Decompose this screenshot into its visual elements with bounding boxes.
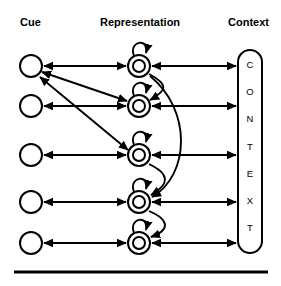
horizontal-links [44, 66, 126, 243]
context-letter-e: E [247, 168, 253, 179]
link-cue-1-rep-2 [42, 72, 127, 101]
representation-1-inner [133, 60, 145, 72]
link-cue-1-rep-3 [40, 77, 128, 150]
self-loop-rep-1 [133, 43, 147, 56]
header-cue: Cue [20, 16, 41, 28]
arc-rep-3-rep-4 [149, 164, 165, 195]
column-headers: Cue Representation Context [20, 16, 269, 28]
representation-4-inner [133, 196, 145, 208]
self-loop-rep-5 [133, 220, 147, 233]
context-letter-o: O [246, 86, 253, 97]
diagonal-links [40, 72, 128, 150]
cue-5 [20, 232, 42, 254]
cue-nodes [20, 55, 42, 254]
context-box: C O N T E X T [238, 50, 262, 253]
network-diagram: Cue Representation Context [0, 0, 281, 286]
context-letter-x: X [247, 195, 254, 206]
cue-3 [20, 144, 42, 166]
cue-1 [20, 55, 42, 77]
self-loop-rep-3 [133, 132, 147, 145]
representation-3-inner [133, 149, 145, 161]
representation-5-inner [133, 237, 145, 249]
context-letter-n: N [247, 113, 254, 124]
self-loop-rep-4 [133, 179, 147, 192]
context-letter-t1: T [247, 141, 253, 152]
header-context: Context [228, 16, 269, 28]
header-representation: Representation [100, 16, 180, 28]
cue-2 [20, 95, 42, 117]
cue-4 [20, 191, 42, 213]
context-letter-t2: T [247, 222, 253, 233]
representation-2-inner [133, 100, 145, 112]
self-loop-rep-2 [133, 83, 147, 96]
context-letter-c: C [247, 59, 254, 70]
arc-rep-4-rep-5 [149, 211, 165, 237]
